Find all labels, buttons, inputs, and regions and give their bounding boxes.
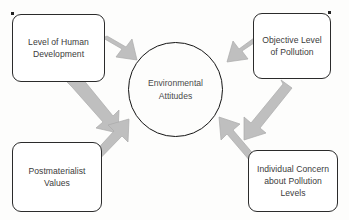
selection-handle-icon bbox=[11, 12, 14, 15]
node-objective-pollution-label: Objective Level of Pollution bbox=[257, 34, 327, 58]
arrow-objective-pollution-to-individual-concern bbox=[244, 80, 292, 140]
node-human-development[interactable]: Level of Human Development bbox=[12, 14, 105, 82]
arrow-human-development-to-center bbox=[103, 36, 137, 60]
node-individual-concern-label: Individual Concern about Pollution Level… bbox=[252, 163, 334, 200]
node-environmental-attitudes[interactable]: Environmental Attitudes bbox=[128, 42, 223, 137]
node-individual-concern[interactable]: Individual Concern about Pollution Level… bbox=[248, 150, 338, 212]
selection-handle-icon bbox=[328, 11, 331, 14]
node-human-development-label: Level of Human Development bbox=[23, 36, 94, 60]
node-objective-pollution[interactable]: Objective Level of Pollution bbox=[253, 13, 331, 79]
node-postmaterialist-values-label: Postmaterialist Values bbox=[23, 165, 90, 189]
node-environmental-attitudes-label: Environmental Attitudes bbox=[143, 77, 208, 102]
diagram-canvas: Level of Human Development Objective Lev… bbox=[0, 0, 349, 220]
node-postmaterialist-values[interactable]: Postmaterialist Values bbox=[12, 142, 102, 212]
